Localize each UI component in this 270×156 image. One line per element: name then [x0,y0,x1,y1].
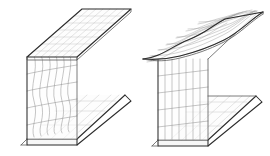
right-beam-panel [143,10,263,146]
left-beam-web [25,50,78,139]
figure-root [0,0,270,156]
left-beam-panel [21,9,131,145]
i-beam-buckling-figure [0,0,270,156]
left-beam-top-flange [27,9,131,60]
right-beam-top-flange-buckled [143,10,263,62]
